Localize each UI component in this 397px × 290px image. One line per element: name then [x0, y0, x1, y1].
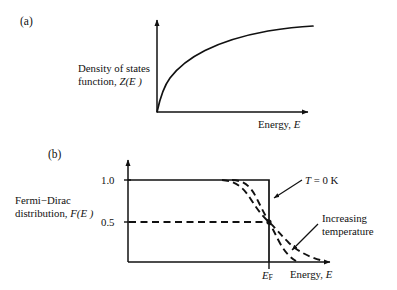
annotation-increasing-temperature-line2: temperature — [322, 225, 374, 237]
panel-b-ytick-1-0: 1.0 — [101, 174, 115, 187]
panel-b-ylabel-line1: Fermi−Dirac — [15, 194, 71, 206]
figure-vector-layer — [0, 0, 397, 290]
annotation-increasing-temperature-line1: Increasing — [322, 212, 367, 224]
fermi-energy-subscript: F — [269, 273, 273, 282]
panel-b-xlabel: Energy, E — [290, 268, 332, 281]
panel-a-dos-curve — [157, 26, 313, 112]
panel-b-xlabel-prefix: Energy, — [290, 268, 326, 280]
panel-a-axes — [157, 20, 308, 112]
panel-a-xlabel-prefix: Energy, — [258, 118, 294, 130]
panel-a-ylabel-line1: Density of states — [78, 62, 150, 74]
panel-b-ylabel-line2-prefix: distribution, — [15, 207, 70, 219]
leader-line-increasing-temperature — [292, 224, 318, 250]
panel-b-ytick-0-5: 0.5 — [101, 216, 115, 229]
panel-b-ylabel: Fermi−Dirac distribution, F(E ) — [15, 194, 93, 219]
fermi-energy-symbol: E — [262, 269, 269, 281]
panel-b-tag: (b) — [48, 148, 61, 162]
panel-b-fermi-curve-low-temperature — [232, 180, 296, 261]
panel-a-ylabel-line2-prefix: function, — [78, 75, 119, 87]
panel-b-fermi-curve-high-temperature — [222, 180, 322, 261]
leader-line-zero-kelvin — [274, 180, 302, 198]
panel-a-xlabel: Energy, E — [258, 118, 300, 131]
panel-b-crossing-point-marker — [266, 219, 271, 224]
panel-b-axes — [124, 160, 330, 269]
panel-a-ylabel-line2-arg: (E ) — [125, 75, 142, 87]
panel-b-ylabel-line2-var: F — [70, 207, 77, 219]
panel-b-xlabel-var: E — [326, 268, 333, 280]
panel-a-xlabel-var: E — [294, 118, 301, 130]
panel-b-step-curve-zero-kelvin — [128, 180, 269, 262]
annotation-zero-kelvin-rest: = 0 K — [311, 174, 338, 186]
figure-container: (a) Density of states function, Z(E ) En… — [0, 0, 397, 290]
panel-b-ylabel-line2-arg: (E ) — [77, 207, 94, 219]
panel-a-tag: (a) — [20, 15, 33, 29]
annotation-zero-kelvin: T = 0 K — [305, 174, 338, 187]
annotation-increasing-temperature: Increasing temperature — [322, 212, 374, 237]
panel-b-xtick-fermi-energy: EF — [262, 269, 273, 283]
panel-a-ylabel: Density of states function, Z(E ) — [78, 62, 150, 87]
